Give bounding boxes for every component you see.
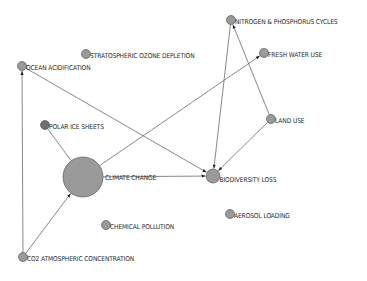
node-label: CLIMATE CHANGE <box>105 174 157 182</box>
node-label: CHEMICAL POLLUTION <box>110 223 174 231</box>
node-chemical[interactable]: CHEMICAL POLLUTION <box>102 221 175 231</box>
node-label: LAND USE <box>275 117 305 125</box>
node-label: AEROSOL LOADING <box>234 212 290 220</box>
node-circle[interactable] <box>206 169 220 183</box>
node-aerosol[interactable]: AEROSOL LOADING <box>226 210 291 220</box>
node-label: CO2 ATMOSPHERIC CONCENTRATION <box>27 255 134 263</box>
edge-climate-to-freshwater <box>99 56 259 166</box>
node-label: FRESH WATER USE <box>268 51 323 59</box>
node-label: OCEAN ACIDIFICATION <box>26 64 91 72</box>
node-label: NITROGEN & PHOSPHORUS CYCLES <box>235 18 338 26</box>
node-ocean[interactable]: OCEAN ACIDIFICATION <box>18 62 91 72</box>
nodes-layer: NITROGEN & PHOSPHORUS CYCLESSTRATOSPHERI… <box>18 16 338 263</box>
node-nitrogen[interactable]: NITROGEN & PHOSPHORUS CYCLES <box>227 16 338 26</box>
node-label: BIODIVERSITY LOSS <box>220 176 277 184</box>
node-ozone[interactable]: STRATOSPHERIC OZONE DEPLETION <box>82 50 195 60</box>
node-polar[interactable]: POLAR ICE SHEETS <box>41 121 105 131</box>
node-landuse[interactable]: LAND USE <box>267 115 305 125</box>
node-label: POLAR ICE SHEETS <box>49 123 104 131</box>
node-freshwater[interactable]: FRESH WATER USE <box>260 49 323 59</box>
edge-polar-to-climate <box>48 129 71 161</box>
edge-co2-to-ocean <box>22 71 23 253</box>
node-biodiversity[interactable]: BIODIVERSITY LOSS <box>206 169 277 184</box>
node-label: STRATOSPHERIC OZONE DEPLETION <box>90 52 195 60</box>
edge-landuse-to-nitrogen <box>233 25 269 115</box>
edge-ocean-to-biodiversity <box>26 68 207 172</box>
node-co2[interactable]: CO2 ATMOSPHERIC CONCENTRATION <box>19 253 135 263</box>
network-graph: NITROGEN & PHOSPHORUS CYCLESSTRATOSPHERI… <box>0 0 367 281</box>
node-circle[interactable] <box>63 157 103 197</box>
node-climate[interactable]: CLIMATE CHANGE <box>63 157 157 197</box>
edge-landuse-to-biodiversity <box>218 122 267 171</box>
edge-nitrogen-to-biodiversity <box>214 24 231 168</box>
edge-co2-to-climate <box>26 193 71 253</box>
